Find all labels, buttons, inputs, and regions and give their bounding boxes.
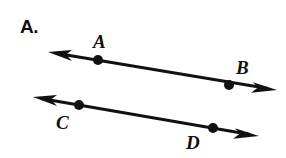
point-label-B: B [236,58,249,77]
point-B-dot [224,80,234,90]
point-label-C: C [56,113,69,132]
point-label-A: A [93,32,106,51]
point-A-dot [93,55,103,65]
point-C-dot [74,100,84,110]
geometry-figure: A. A B C D [0,0,286,158]
parallel-lines-diagram [0,0,286,158]
part-label: A. [20,17,38,36]
point-D-dot [208,123,218,133]
point-label-D: D [186,133,200,152]
line-CD-shaft [41,98,250,134]
